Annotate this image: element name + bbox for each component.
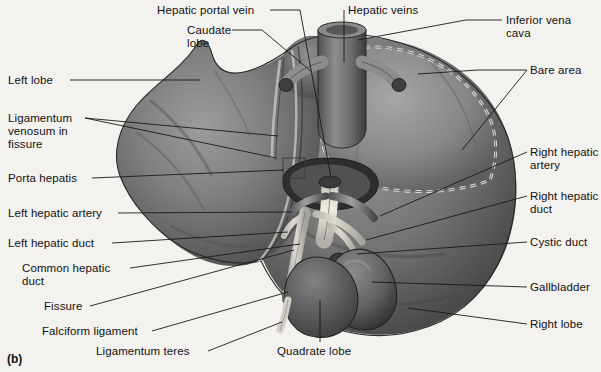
label-hepatic-portal-vein: Hepatic portal vein <box>157 4 254 17</box>
label-left-hepatic-artery: Left hepatic artery <box>8 207 102 220</box>
label-ligamentum-venosum: Ligamentum venosum in fissure <box>8 112 72 151</box>
label-fissure: Fissure <box>44 300 82 313</box>
label-quadrate-lobe: Quadrate lobe <box>277 345 351 358</box>
label-left-hepatic-duct: Left hepatic duct <box>8 237 94 250</box>
figure-panel: Hepatic portal vein Hepatic veins Caudat… <box>0 0 601 372</box>
label-right-lobe: Right lobe <box>530 318 583 331</box>
label-common-hepatic-duct: Common hepatic duct <box>22 262 110 288</box>
figure-caption: (b) <box>7 352 22 366</box>
label-right-hepatic-duct: Right hepatic duct <box>530 190 598 216</box>
label-inferior-vena-cava: Inferior vena cava <box>506 14 571 40</box>
label-ligamentum-teres: Ligamentum teres <box>96 345 190 358</box>
label-bare-area: Bare area <box>530 64 581 77</box>
label-porta-hepatis: Porta hepatis <box>8 172 77 185</box>
label-cystic-duct: Cystic duct <box>530 236 587 249</box>
label-gallbladder: Gallbladder <box>530 281 590 294</box>
label-left-lobe: Left lobe <box>8 74 53 87</box>
label-right-hepatic-artery: Right hepatic artery <box>530 146 598 172</box>
label-caudate-lobe: Caudate lobe <box>187 24 231 50</box>
label-hepatic-veins: Hepatic veins <box>348 4 418 17</box>
label-falciform-ligament: Falciform ligament <box>42 325 138 338</box>
inferior-vena-cava-shape <box>318 22 366 148</box>
liver-illustration <box>0 0 601 372</box>
